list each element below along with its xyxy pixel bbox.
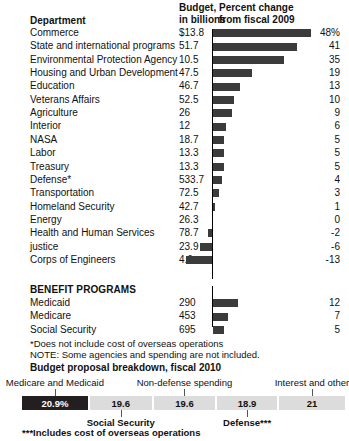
row-percent-value: 19 — [300, 67, 340, 78]
row-budget-value: 290 — [179, 297, 196, 308]
row-percent-value: 13 — [300, 80, 340, 91]
row-bar — [186, 256, 212, 264]
row-budget-value: 26 — [179, 107, 190, 118]
row-category-label: Health and Human Services — [30, 227, 155, 238]
footnote-note: NOTE: Some agencies and spending are not… — [30, 349, 260, 360]
row-percent-value: 3 — [300, 187, 340, 198]
row-percent-value: 5 — [300, 147, 340, 158]
row-bar — [213, 29, 310, 37]
row-category-label: justice — [30, 241, 58, 252]
row-budget-value: 453 — [179, 310, 196, 321]
row-bar — [213, 109, 231, 117]
row-percent-value: 7 — [300, 310, 340, 321]
row-bar — [200, 243, 212, 251]
row-category-label: Environmental Protection Agency — [30, 54, 177, 65]
row-category-label: Housing and Urban Development — [30, 67, 178, 78]
row-bar — [213, 313, 227, 321]
breakdown-segment-label: Interest and other — [275, 377, 349, 388]
row-budget-value: 26.3 — [179, 214, 198, 225]
row-budget-value: 23.9 — [179, 241, 198, 252]
row-bar — [213, 203, 215, 211]
row-bar — [213, 189, 219, 197]
row-budget-value: 13.3 — [179, 161, 198, 172]
row-category-label: Transportation — [30, 187, 94, 198]
row-percent-value: -13 — [300, 254, 340, 265]
row-budget-value: 78.7 — [179, 227, 198, 238]
row-budget-value: 42.7 — [179, 201, 198, 212]
row-percent-value: 1 — [300, 201, 340, 212]
row-category-label: Social Security — [30, 324, 96, 335]
row-budget-value: 52.5 — [179, 94, 198, 105]
breakdown-leader-line — [312, 389, 313, 396]
row-category-label: Defense* — [30, 174, 71, 185]
row-percent-value: 4 — [300, 174, 340, 185]
breakdown-segment: 19.6 — [154, 396, 216, 410]
row-budget-value: 51.7 — [179, 40, 198, 51]
row-category-label: Interior — [30, 120, 61, 131]
row-category-label: State and international programs — [30, 40, 175, 51]
footnote-asterisk: *Does not include cost of overseas opera… — [30, 338, 223, 349]
row-bar — [213, 163, 223, 171]
row-budget-value: 47.5 — [179, 67, 198, 78]
row-budget-value: 10.5 — [179, 54, 198, 65]
row-budget-value: 18.7 — [179, 134, 198, 145]
row-bar — [213, 299, 237, 307]
row-budget-value: 695 — [179, 324, 196, 335]
row-category-label: Medicare — [30, 310, 71, 321]
row-category-label: Labor — [30, 147, 56, 158]
benefit-programs-heading: BENEFIT PROGRAMS — [30, 284, 136, 295]
row-budget-value: 72.5 — [179, 187, 198, 198]
row-percent-value: 35 — [300, 54, 340, 65]
breakdown-bar: 20.9%19.619.618.921 — [22, 396, 345, 410]
row-category-label: Treasury — [30, 161, 69, 172]
row-category-label: Homeland Security — [30, 201, 114, 212]
breakdown-segment: 19.6 — [90, 396, 152, 410]
row-percent-value: 0 — [300, 214, 340, 225]
row-percent-value: 10 — [300, 94, 340, 105]
row-bar — [213, 43, 296, 51]
row-category-label: Corps of Engineers — [30, 254, 116, 265]
row-percent-value: -6 — [300, 241, 340, 252]
row-bar — [213, 136, 223, 144]
breakdown-segment-label: Non-defense spending — [137, 377, 233, 388]
row-category-label: Agriculture — [30, 107, 78, 118]
row-category-label: Energy — [30, 214, 62, 225]
breakdown-leader-line — [184, 389, 185, 396]
row-percent-value: 5 — [300, 134, 340, 145]
row-budget-value: 13.3 — [179, 147, 198, 158]
row-category-label: Commerce — [30, 27, 79, 38]
row-bar — [213, 69, 252, 77]
row-category-label: Education — [30, 80, 74, 91]
row-percent-value: -2 — [300, 227, 340, 238]
footnote-triple-asterisk: ***Includes cost of overseas operations — [22, 427, 200, 438]
breakdown-segment-label: Defense*** — [223, 417, 271, 428]
row-category-label: NASA — [30, 134, 57, 145]
percent-header-line2: from fiscal 2009 — [219, 14, 344, 26]
column-header-percent-change: Percent change from fiscal 2009 — [219, 2, 344, 25]
row-budget-value: 12 — [179, 120, 190, 131]
percent-header-line1: Percent change — [219, 2, 344, 14]
breakdown-title: Budget proposal breakdown, fiscal 2010 — [30, 362, 221, 373]
row-budget-value: 533.7 — [179, 174, 204, 185]
row-category-label: Medicaid — [30, 297, 70, 308]
row-category-label: Veterans Affairs — [30, 94, 100, 105]
row-percent-value: 6 — [300, 120, 340, 131]
row-bar — [213, 149, 223, 157]
row-percent-value: 41 — [300, 40, 340, 51]
row-percent-value: 5 — [300, 324, 340, 335]
row-bar — [213, 56, 284, 64]
breakdown-leader-line — [247, 410, 248, 417]
breakdown-segment: 18.9 — [217, 396, 277, 410]
row-bar — [213, 123, 225, 131]
row-percent-value: 9 — [300, 107, 340, 118]
row-budget-value: 46.7 — [179, 80, 198, 91]
row-bar — [213, 176, 221, 184]
breakdown-leader-line — [121, 410, 122, 417]
row-bar — [213, 96, 233, 104]
breakdown-leader-line — [55, 389, 56, 396]
breakdown-segment: 21 — [279, 396, 345, 410]
budget-chart-sheet: Budget, in billions Percent change from … — [0, 0, 349, 441]
row-percent-value: 5 — [300, 161, 340, 172]
column-header-department: Department — [30, 15, 86, 26]
breakdown-segment-label: Medicare and Medicaid — [6, 377, 104, 388]
